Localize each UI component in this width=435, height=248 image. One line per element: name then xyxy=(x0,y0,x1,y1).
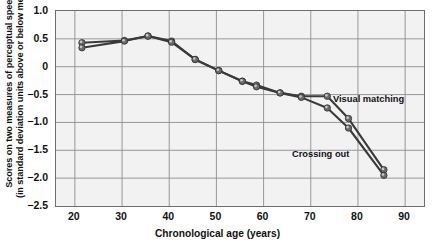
y-tick-label: −1.0 xyxy=(14,115,48,127)
series-annotation-visual-matching: Visual matching xyxy=(333,94,404,104)
x-tick-label: 80 xyxy=(342,210,372,222)
x-axis-title: Chronological age (years) xyxy=(0,228,435,239)
plot-svg xyxy=(56,11,424,206)
x-tick-label: 70 xyxy=(295,210,325,222)
x-tick-label: 20 xyxy=(59,210,89,222)
y-tick-label: 0 xyxy=(14,60,48,72)
x-tick-label: 60 xyxy=(248,210,278,222)
series-annotation-crossing-out: Crossing out xyxy=(292,149,349,159)
x-tick-label: 30 xyxy=(106,210,136,222)
y-tick-label: −0.5 xyxy=(14,88,48,100)
y-tick-label: 0.5 xyxy=(14,32,48,44)
perceptual-speed-line-chart: Scores on two measures of perceptual spe… xyxy=(0,0,435,248)
x-tick-label: 90 xyxy=(389,210,419,222)
y-tick-label: 1.0 xyxy=(14,4,48,16)
plot-area xyxy=(55,10,425,207)
x-tick-label: 40 xyxy=(153,210,183,222)
y-tick-label: −2.5 xyxy=(14,199,48,211)
y-tick-label: −2.0 xyxy=(14,171,48,183)
x-tick-label: 50 xyxy=(200,210,230,222)
y-tick-label: −1.5 xyxy=(14,143,48,155)
